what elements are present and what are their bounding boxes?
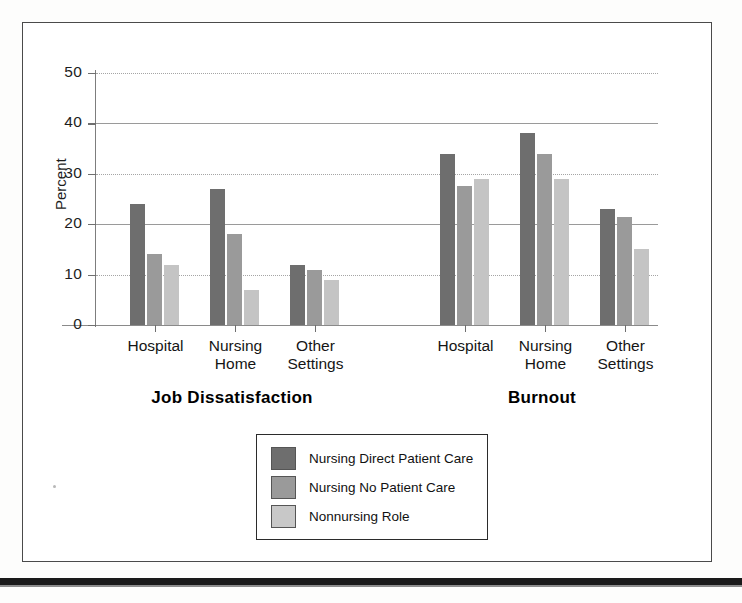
x-tick-mark	[235, 325, 236, 332]
bar-job-dissatisfaction-nursing-home-series-2	[244, 290, 259, 325]
x-tick-mark	[155, 325, 156, 332]
y-axis-title: Percent	[52, 158, 69, 210]
x-axis-label-line: Settings	[256, 355, 376, 373]
bar-job-dissatisfaction-other-settings-series-2	[324, 280, 339, 325]
figure-page: 01020304050 Percent HospitalNursingHomeO…	[0, 0, 742, 603]
legend-label: Nonnursing Role	[309, 509, 410, 524]
x-axis-label-other-settings: OtherSettings	[566, 337, 686, 372]
legend-swatch-light	[271, 505, 296, 528]
bar-burnout-hospital-series-1	[457, 186, 472, 325]
group-title-burnout: Burnout	[412, 388, 672, 408]
legend-box: Nursing Direct Patient CareNursing No Pa…	[256, 434, 488, 540]
x-axis-label-line: Other	[256, 337, 376, 355]
x-tick-mark	[545, 325, 546, 332]
bar-job-dissatisfaction-hospital-series-0	[130, 204, 145, 325]
group-title-job-dissatisfaction: Job Dissatisfaction	[102, 388, 362, 408]
legend-item-2: Nonnursing Role	[271, 502, 487, 531]
bar-job-dissatisfaction-nursing-home-series-1	[227, 234, 242, 325]
bar-burnout-nursing-home-series-1	[537, 154, 552, 325]
bar-job-dissatisfaction-nursing-home-series-0	[210, 189, 225, 325]
bar-job-dissatisfaction-other-settings-series-1	[307, 270, 322, 325]
legend-swatch-medium	[271, 476, 296, 499]
bar-job-dissatisfaction-hospital-series-1	[147, 254, 162, 325]
x-tick-mark	[315, 325, 316, 332]
page-bottom-rule	[0, 578, 742, 585]
x-axis-label-other-settings: OtherSettings	[256, 337, 376, 372]
bar-job-dissatisfaction-other-settings-series-0	[290, 265, 305, 325]
x-tick-mark	[625, 325, 626, 332]
legend-label: Nursing No Patient Care	[309, 480, 455, 495]
legend-item-1: Nursing No Patient Care	[271, 473, 487, 502]
x-axis-label-line: Settings	[566, 355, 686, 373]
bar-burnout-other-settings-series-1	[617, 217, 632, 325]
legend-swatch-dark	[271, 447, 296, 470]
bar-burnout-other-settings-series-0	[600, 209, 615, 325]
legend-label: Nursing Direct Patient Care	[309, 451, 473, 466]
x-tick-mark	[465, 325, 466, 332]
bar-job-dissatisfaction-hospital-series-2	[164, 265, 179, 325]
page-bottom-rule-shadow	[0, 585, 742, 587]
bar-burnout-nursing-home-series-2	[554, 179, 569, 325]
bar-burnout-hospital-series-2	[474, 179, 489, 325]
bar-burnout-nursing-home-series-0	[520, 133, 535, 325]
legend-item-0: Nursing Direct Patient Care	[271, 444, 487, 473]
bar-burnout-hospital-series-0	[440, 154, 455, 325]
x-axis-label-line: Other	[566, 337, 686, 355]
bar-burnout-other-settings-series-2	[634, 249, 649, 325]
